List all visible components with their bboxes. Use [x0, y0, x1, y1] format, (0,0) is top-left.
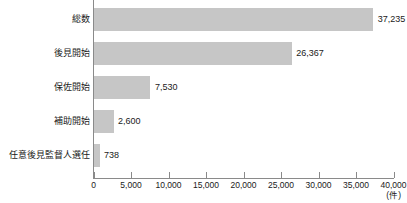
axis-tick	[169, 172, 170, 178]
bar-value-label: 7,530	[155, 82, 178, 93]
bar-value-label: 37,235	[378, 14, 406, 25]
category-label: 後見開始	[54, 48, 94, 59]
category-label: 保佐開始	[54, 82, 94, 93]
bar-value-label: 738	[104, 150, 119, 161]
bar	[94, 76, 150, 99]
category-label: 補助開始	[54, 116, 94, 127]
value-axis-line	[93, 178, 394, 179]
category-label: 任意後見監督人選任	[9, 150, 94, 161]
bar	[94, 42, 292, 65]
axis-tick-label: 25,000	[268, 180, 294, 190]
axis-tick	[244, 172, 245, 178]
bar	[94, 144, 100, 167]
axis-tick	[94, 172, 95, 178]
axis-tick-label: 15,000	[193, 180, 219, 190]
bar	[94, 8, 373, 31]
bar-value-label: 26,367	[296, 48, 324, 59]
axis-tick-label: 30,000	[306, 180, 332, 190]
axis-tick	[394, 172, 395, 178]
unit-label: (件)	[386, 190, 401, 200]
axis-tick	[206, 172, 207, 178]
axis-tick-label: 35,000	[343, 180, 369, 190]
axis-tick-label: 10,000	[156, 180, 182, 190]
axis-tick	[356, 172, 357, 178]
axis-tick-label: 5,000	[120, 180, 141, 190]
axis-tick-label: 0	[91, 180, 96, 190]
axis-tick	[281, 172, 282, 178]
axis-tick-label: 20,000	[231, 180, 257, 190]
bar	[94, 110, 114, 133]
category-label: 総数	[72, 14, 94, 25]
axis-tick	[319, 172, 320, 178]
bar-value-label: 2,600	[118, 116, 141, 127]
axis-tick-label: 40,000	[381, 180, 407, 190]
axis-tick	[131, 172, 132, 178]
